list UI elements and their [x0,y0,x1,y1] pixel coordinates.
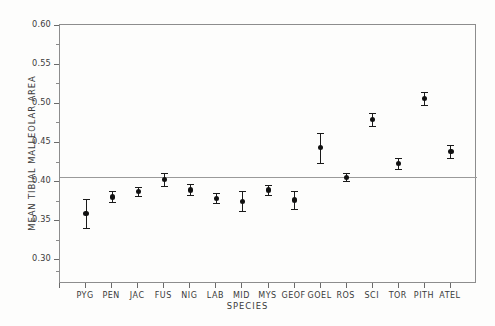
mean-marker [136,189,141,194]
error-bar-cap-upper [343,173,350,174]
plot-area [59,24,476,283]
error-bar-cap-upper [265,185,272,186]
y-tick-mark [54,181,59,182]
error-bar-cap-upper [447,145,454,146]
error-bar-cap-lower [135,196,142,197]
error-bar-cap-lower [343,181,350,182]
mean-marker [370,117,375,122]
chart-figure: 0.600.550.500.450.400.350.30 MEAN TIBIAL… [0,0,495,326]
x-axis-tick [346,283,347,288]
error-bar-cap-lower [265,195,272,196]
error-bar-cap-upper [109,191,116,192]
y-minor-tick-mark [56,162,59,163]
error-bar-cap-lower [213,203,220,204]
y-minor-tick-mark [56,201,59,202]
mean-marker [422,96,427,101]
mean-marker [83,211,88,216]
error-bar-cap-lower [369,126,376,127]
y-tick-mark [54,259,59,260]
error-bar-cap-upper [213,193,220,194]
mean-marker [110,194,115,199]
error-bar-cap-upper [239,191,246,192]
error-bar-cap-upper [369,113,376,114]
x-axis-tick [137,283,138,288]
y-tick-label: 0.60 [32,19,51,29]
x-axis-tick [450,283,451,288]
error-bar-cap-lower [187,195,194,196]
mean-marker [448,149,453,154]
mean-marker [162,177,167,182]
error-bar-cap-upper [291,191,298,192]
x-tick-label-atel: ATEL [430,291,470,300]
error-bar-cap-upper [161,173,168,174]
error-bar-cap-lower [395,169,402,170]
mean-marker [188,187,193,192]
x-axis-tick [320,283,321,288]
error-bar-cap-lower [447,158,454,159]
error-bar-cap-upper [395,158,402,159]
y-tick-mark [54,103,59,104]
mean-marker [318,145,323,150]
x-axis-tick [111,283,112,288]
y-axis-title: MEAN TIBIAL MALLEOLAR AREA [27,38,37,268]
x-axis-tick [241,283,242,288]
x-axis-tick [372,283,373,288]
y-tick-mark [54,64,59,65]
x-axis-tick [85,283,86,288]
error-bar-cap-lower [317,163,324,164]
error-bar-cap-lower [109,202,116,203]
x-axis-title: SPECIES [0,301,495,311]
error-bar-cap-upper [317,133,324,134]
x-axis-tick [215,283,216,288]
mean-marker [292,197,297,202]
error-bar-cap-lower [291,209,298,210]
error-bar-cap-lower [83,228,90,229]
x-axis-tick [398,283,399,288]
y-minor-tick-mark [56,44,59,45]
y-minor-tick-mark [56,83,59,84]
y-tick-mark [54,220,59,221]
error-bar-cap-upper [83,199,90,200]
y-tick-mark [54,142,59,143]
error-bar-cap-lower [421,105,428,106]
x-axis-tick [189,283,190,288]
x-axis-tick [424,283,425,288]
reference-line [60,177,477,178]
error-bar-cap-lower [161,186,168,187]
mean-marker [396,161,401,166]
mean-marker [266,187,271,192]
mean-marker [214,196,219,201]
y-minor-tick-mark [56,240,59,241]
x-axis-tick [59,283,60,288]
y-minor-tick-mark [56,122,59,123]
x-axis-tick [163,283,164,288]
y-tick-mark [54,25,59,26]
x-axis-tick [294,283,295,288]
y-minor-tick-mark [56,271,59,272]
error-bar-cap-upper [187,184,194,185]
error-bar-cap-lower [239,211,246,212]
mean-marker [344,175,349,180]
mean-marker [240,199,245,204]
error-bar-cap-upper [421,92,428,93]
x-axis-tick [268,283,269,288]
error-bar-cap-upper [135,187,142,188]
